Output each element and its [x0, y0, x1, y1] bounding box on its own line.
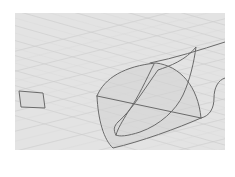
- perspective-viewport[interactable]: [15, 13, 225, 150]
- rectangle-object[interactable]: [19, 91, 45, 108]
- viewport-canvas[interactable]: [15, 13, 225, 150]
- cad-application-window: [0, 0, 235, 177]
- long-line-curve[interactable]: [150, 42, 225, 63]
